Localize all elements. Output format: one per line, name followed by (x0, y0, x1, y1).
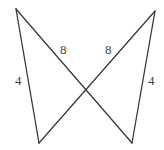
left-diagonal-segment (16, 9, 132, 143)
left-diagonal-label: 8 (60, 42, 67, 57)
geometry-diagram: 4 8 8 4 (0, 0, 164, 150)
diagram-canvas: 4 8 8 4 (0, 0, 164, 150)
left-side-label: 4 (15, 73, 22, 88)
right-diagonal-segment (39, 11, 155, 143)
right-diagonal-label: 8 (105, 42, 112, 57)
right-side-label: 4 (148, 73, 155, 88)
